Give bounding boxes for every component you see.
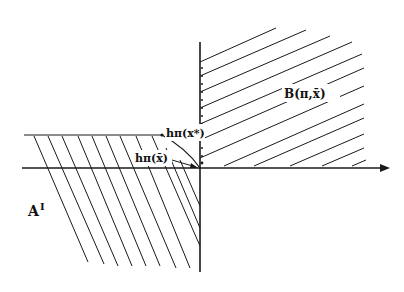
y-axis-dots — [201, 67, 204, 164]
label-h-x-bar: hπ(x̄) — [135, 152, 168, 165]
x-axis-arrowhead-icon — [380, 164, 390, 172]
point-h-x-star — [160, 133, 163, 136]
label-region-a: A — [27, 203, 40, 219]
label-h-x-star: hπ(x*) — [166, 127, 205, 140]
diagram-canvas: B(π,x̄) hπ(x*) hπ(x̄) A I — [0, 0, 404, 292]
label-region-b: B(π,x̄) — [284, 87, 326, 101]
label-region-a-prime: I — [40, 201, 45, 212]
region-a-hatching — [34, 136, 200, 268]
